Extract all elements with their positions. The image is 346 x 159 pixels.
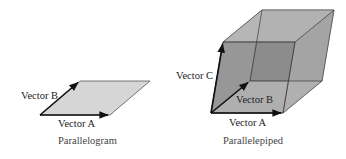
parallelepiped-vector-a-label: Vector A xyxy=(229,117,266,128)
parallelepiped-vector-c-label: Vector C xyxy=(176,70,213,81)
parallelogram-caption: Parallelogram xyxy=(58,135,117,146)
diagram-canvas: Vector B Vector A Parallelogram xyxy=(0,0,346,159)
parallelepiped-caption: Parallelepiped xyxy=(223,135,284,146)
parallelepiped-figure: Vector C Vector B Vector A Parallelepipe… xyxy=(176,10,334,146)
parallelogram-vector-a-label: Vector A xyxy=(58,118,95,129)
parallelogram-figure: Vector B Vector A Parallelogram xyxy=(21,81,150,146)
parallelepiped-vector-b-label: Vector B xyxy=(236,94,273,105)
parallelogram-vector-b-label: Vector B xyxy=(21,90,58,101)
